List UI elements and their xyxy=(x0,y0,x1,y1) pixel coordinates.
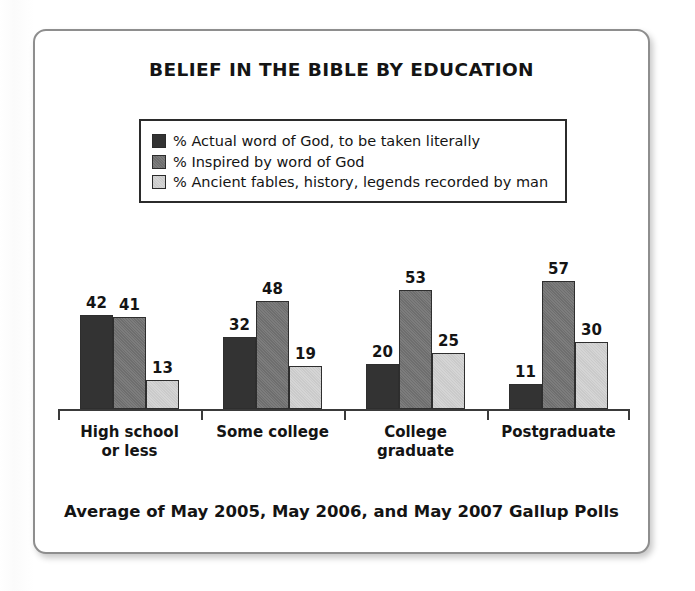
bar-group: 324819 xyxy=(201,241,344,411)
bar-value-label: 42 xyxy=(86,294,107,312)
bar-set: 205325 xyxy=(344,239,487,409)
bar[interactable] xyxy=(256,301,289,409)
bar-item[interactable]: 41 xyxy=(113,317,146,409)
x-axis-label: Collegegraduate xyxy=(344,423,487,461)
legend-swatch-dark-icon xyxy=(152,134,166,148)
x-axis-label: Postgraduate xyxy=(487,423,630,461)
bar-value-label: 53 xyxy=(405,269,426,287)
bar-group: 115730 xyxy=(487,241,630,411)
page-title: BELIEF IN THE BIBLE BY EDUCATION xyxy=(35,59,648,80)
chart-legend: % Actual word of God, to be taken litera… xyxy=(139,119,567,203)
x-axis-labels: High schoolor lessSome collegeCollegegra… xyxy=(58,423,630,461)
bar-item[interactable]: 19 xyxy=(289,366,322,409)
bar-item[interactable]: 30 xyxy=(575,342,608,409)
legend-item: % Inspired by word of God xyxy=(152,155,555,170)
axis-tick xyxy=(201,411,203,420)
axis-tick xyxy=(487,411,489,420)
bar-value-label: 48 xyxy=(262,280,283,298)
bar[interactable] xyxy=(432,353,465,409)
bar[interactable] xyxy=(509,384,542,409)
plot-area: 424113324819205325115730 xyxy=(58,241,630,411)
bar-value-label: 30 xyxy=(581,321,602,339)
page-root: BELIEF IN THE BIBLE BY EDUCATION % Actua… xyxy=(0,0,695,591)
bar-value-label: 32 xyxy=(229,316,250,334)
chart-footer-note: Average of May 2005, May 2006, and May 2… xyxy=(35,502,648,521)
bar-value-label: 20 xyxy=(372,343,393,361)
legend-item: % Actual word of God, to be taken litera… xyxy=(152,134,555,149)
x-axis-label: High schoolor less xyxy=(58,423,201,461)
bar-set: 424113 xyxy=(58,239,201,409)
legend-item-label: % Inspired by word of God xyxy=(173,155,365,170)
bar[interactable] xyxy=(80,315,113,409)
bar-item[interactable]: 11 xyxy=(509,384,542,409)
bar[interactable] xyxy=(575,342,608,409)
bar-item[interactable]: 13 xyxy=(146,380,179,409)
bar-item[interactable]: 32 xyxy=(223,337,256,409)
bar-item[interactable]: 48 xyxy=(256,301,289,409)
chart-card: BELIEF IN THE BIBLE BY EDUCATION % Actua… xyxy=(33,29,650,554)
bar-item[interactable]: 42 xyxy=(80,315,113,409)
bar[interactable] xyxy=(113,317,146,409)
axis-tick xyxy=(58,411,60,420)
bar[interactable] xyxy=(542,281,575,409)
bar-item[interactable]: 20 xyxy=(366,364,399,409)
bar-value-label: 25 xyxy=(438,332,459,350)
bar-item[interactable]: 25 xyxy=(432,353,465,409)
bar-item[interactable]: 57 xyxy=(542,281,575,409)
bar-groups: 424113324819205325115730 xyxy=(58,241,630,411)
bar-set: 115730 xyxy=(487,239,630,409)
legend-swatch-medium-icon xyxy=(152,155,166,169)
bar[interactable] xyxy=(399,290,432,409)
bar-value-label: 57 xyxy=(548,260,569,278)
axis-tick xyxy=(628,411,630,420)
bar-value-label: 19 xyxy=(295,345,316,363)
legend-item-label: % Ancient fables, history, legends recor… xyxy=(173,175,548,190)
bar-item[interactable]: 53 xyxy=(399,290,432,409)
legend-item-label: % Actual word of God, to be taken litera… xyxy=(173,134,480,149)
bar-set: 324819 xyxy=(201,239,344,409)
axis-tick xyxy=(344,411,346,420)
bar[interactable] xyxy=(366,364,399,409)
legend-swatch-light-icon xyxy=(152,175,166,189)
bar[interactable] xyxy=(289,366,322,409)
bar-value-label: 11 xyxy=(515,363,536,381)
bar-value-label: 41 xyxy=(119,296,140,314)
bar-value-label: 13 xyxy=(152,359,173,377)
bar-group: 424113 xyxy=(58,241,201,411)
bar[interactable] xyxy=(146,380,179,409)
x-axis-label: Some college xyxy=(201,423,344,461)
bar[interactable] xyxy=(223,337,256,409)
bar-group: 205325 xyxy=(344,241,487,411)
legend-item: % Ancient fables, history, legends recor… xyxy=(152,175,555,190)
